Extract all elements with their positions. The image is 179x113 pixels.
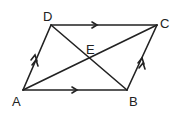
label-a: A <box>12 94 21 109</box>
label-e: E <box>86 42 95 57</box>
diagonal-db <box>51 25 127 90</box>
parallelogram-diagram: D C E A B <box>0 0 179 113</box>
label-d: D <box>43 9 52 24</box>
label-b: B <box>129 94 138 109</box>
side-da <box>23 25 51 90</box>
label-c: C <box>160 16 169 31</box>
